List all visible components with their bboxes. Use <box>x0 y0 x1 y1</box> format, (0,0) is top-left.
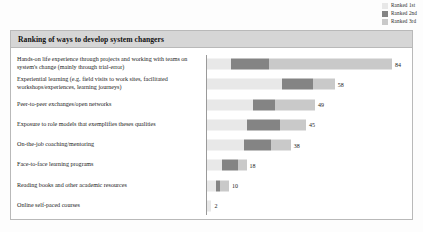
chart-bar-segment <box>280 119 306 130</box>
chart-row-label: Face-to-face learning programs <box>17 162 203 170</box>
chart-bar-area: 58 <box>207 79 408 90</box>
chart-bar-segment <box>247 119 280 130</box>
chart-bar-segment <box>220 180 229 191</box>
chart-bar-value: 45 <box>309 122 315 128</box>
chart-plot-area: Hands-on life experience through project… <box>11 49 412 219</box>
chart-bar-segment <box>207 160 222 171</box>
legend-item-ranked-3rd[interactable]: Ranked 3rd <box>382 19 416 25</box>
chart-bar-segment <box>244 140 270 151</box>
chart-bar-segment <box>207 200 211 211</box>
chart-bar-segment <box>207 99 253 110</box>
chart-bar[interactable] <box>207 79 335 90</box>
chart-bar-area: 38 <box>207 140 408 151</box>
chart-bar-area: 84 <box>207 59 408 70</box>
chart-bar-area: 18 <box>207 160 408 171</box>
chart-bar[interactable] <box>207 99 315 110</box>
legend-item-ranked-1st[interactable]: Ranked 1st <box>382 3 415 9</box>
chart-bar-segment <box>269 59 392 70</box>
chart-bar-segment <box>207 140 244 151</box>
page-title: Ranking of ways to develop system change… <box>18 35 164 44</box>
chart-bar-segment <box>282 79 313 90</box>
chart-row-label: Online self-paced courses <box>17 202 203 210</box>
chart-row: Experiential learning (e.g. field visits… <box>11 74 412 94</box>
chart-bar-segment <box>253 99 275 110</box>
chart-bar-segment <box>207 119 247 130</box>
chart-bar[interactable] <box>207 180 229 191</box>
chart-row: Exposure to role models that exemplifies… <box>11 115 412 135</box>
chart-bar-segment <box>275 99 315 110</box>
chart-bar-segment <box>207 59 231 70</box>
chart-bar[interactable] <box>207 59 392 70</box>
chart-bar-segment <box>222 160 237 171</box>
chart-bar-value: 84 <box>395 61 401 67</box>
legend-label-ranked-3rd: Ranked 3rd <box>391 19 416 24</box>
legend-label-ranked-2nd: Ranked 2nd <box>391 11 417 16</box>
chart-bar-area: 10 <box>207 180 408 191</box>
chart-bar-value: 58 <box>338 81 344 87</box>
legend-item-ranked-2nd[interactable]: Ranked 2nd <box>382 11 417 17</box>
chart-row-label: Reading books and other academic resourc… <box>17 182 203 190</box>
chart-bar-value: 49 <box>318 102 324 108</box>
chart-row-label: Hands-on life experience through project… <box>17 56 203 71</box>
chart-bar-value: 18 <box>250 162 256 168</box>
legend-swatch-ranked-3rd <box>382 19 388 25</box>
chart-bar[interactable] <box>207 160 247 171</box>
chart-row-label: Experiential learning (e.g. field visits… <box>17 77 203 92</box>
chart-bar-area: 49 <box>207 99 408 110</box>
legend-swatch-ranked-2nd <box>382 11 388 17</box>
chart-row: Reading books and other academic resourc… <box>11 176 412 196</box>
chart-row: Face-to-face learning programs18 <box>11 155 412 175</box>
panel-titlebar: Ranking of ways to develop system change… <box>11 31 412 48</box>
chart-bar-segment <box>231 59 268 70</box>
chart-bar-segment <box>207 180 216 191</box>
chart-bar[interactable] <box>207 200 211 211</box>
chart-bar[interactable] <box>207 140 291 151</box>
chart-bar-value: 2 <box>214 203 217 209</box>
chart-bar-value: 38 <box>294 142 300 148</box>
chart-bar-value: 10 <box>232 183 238 189</box>
chart-bar-segment <box>313 79 335 90</box>
chart-row: Hands-on life experience through project… <box>11 54 412 74</box>
chart-bar[interactable] <box>207 119 306 130</box>
chart-legend: Ranked 1st Ranked 2nd Ranked 3rd <box>382 3 417 25</box>
chart-panel: Ranking of ways to develop system change… <box>10 30 413 220</box>
chart-row: Online self-paced courses2 <box>11 196 412 216</box>
chart-row-label: Exposure to role models that exemplifies… <box>17 121 203 129</box>
legend-label-ranked-1st: Ranked 1st <box>391 3 415 8</box>
chart-row: On-the-job coaching/mentoring38 <box>11 135 412 155</box>
chart-bar-segment <box>207 79 282 90</box>
chart-row-label: On-the-job coaching/mentoring <box>17 141 203 149</box>
chart-bar-segment <box>271 140 291 151</box>
chart-bar-segment <box>238 160 247 171</box>
chart-rows: Hands-on life experience through project… <box>11 49 412 219</box>
chart-bar-area: 45 <box>207 119 408 130</box>
chart-page: Ranked 1st Ranked 2nd Ranked 3rd Ranking… <box>0 0 423 232</box>
chart-bar-area: 2 <box>207 200 408 211</box>
chart-row-label: Peer-to-peer exchanges/open networks <box>17 101 203 109</box>
chart-row: Peer-to-peer exchanges/open networks49 <box>11 95 412 115</box>
legend-swatch-ranked-1st <box>382 3 388 9</box>
